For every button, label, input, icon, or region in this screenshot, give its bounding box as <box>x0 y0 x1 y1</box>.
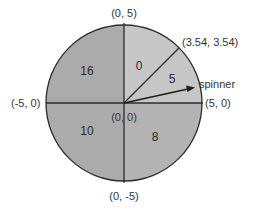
sector-label-8: 8 <box>152 130 159 144</box>
sector-label-0: 0 <box>136 59 143 73</box>
point-label-diagonal: (3.54, 3.54) <box>182 36 238 48</box>
point-label-center: (0, 0) <box>111 111 137 123</box>
sector-label-16: 16 <box>80 64 94 78</box>
point-label-right: (5, 0) <box>205 97 231 109</box>
point-label-top: (0, 5) <box>111 7 137 19</box>
point-label-bottom: (0, -5) <box>109 190 138 202</box>
sector-label-10: 10 <box>80 124 94 138</box>
spinner-diagram: 16 0 5 10 8 (0, 5) (0, -5) (-5, 0) (5, 0… <box>0 0 262 213</box>
spinner-label: spinner <box>199 78 235 90</box>
point-label-left: (-5, 0) <box>11 97 40 109</box>
sector-label-5: 5 <box>169 72 176 86</box>
